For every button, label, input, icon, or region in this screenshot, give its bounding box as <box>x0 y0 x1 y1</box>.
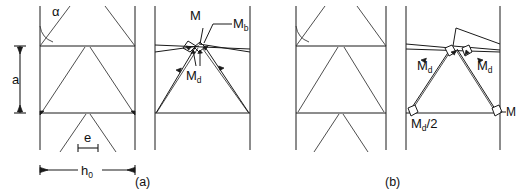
panel-b-geometry <box>296 6 386 152</box>
strut-upper-right-b <box>357 6 386 46</box>
label-dimension-a: a <box>12 72 20 87</box>
label-moment-Mb: Mb <box>233 16 249 33</box>
label-moment-Md-half-b: Md/2 <box>411 116 437 133</box>
diagonal-right-b <box>344 47 384 112</box>
diagonal-left-a <box>42 47 85 112</box>
member-left-heavy-b2 <box>409 48 451 112</box>
diagonal-right-b2 <box>456 50 496 113</box>
strut-lower-right-b <box>343 114 368 152</box>
label-dimension-e: e <box>84 130 91 145</box>
alpha-arc-a <box>40 26 53 42</box>
label-moment-Md-left-b: Md <box>417 58 433 75</box>
arrowhead-right-member-a2 <box>219 66 224 70</box>
strut-upper-left-b <box>296 6 325 46</box>
strut-lower-left-b <box>314 114 339 152</box>
dim-a-arrow-up <box>17 47 22 54</box>
vector-M-shaft-a2 <box>200 28 203 44</box>
tie-apex-left-b2 <box>406 44 451 48</box>
caption-b: (b) <box>385 175 400 189</box>
member-right-heavy-a2 <box>205 47 249 113</box>
diagonal-right-a <box>90 47 133 112</box>
top-chord-a2 <box>155 45 250 49</box>
tie-apex-right-b2 <box>456 28 500 44</box>
strut-upper-right-a <box>105 6 135 46</box>
vector-Md-right-head-a2 <box>198 50 203 53</box>
strut-lower-left-a <box>60 114 86 152</box>
label-moment-M-a: M <box>190 8 201 23</box>
strut-lower-right-a <box>90 114 116 152</box>
dim-h0-arrow-right <box>127 167 135 172</box>
vector-terminal-left-b2 <box>408 105 418 116</box>
diagonal-right-a2 <box>203 49 248 112</box>
label-moment-Md-a: Md <box>186 68 202 85</box>
panel-a-geometry <box>14 6 135 178</box>
label-moment-M-right-b: M <box>506 105 516 119</box>
figure-canvas: α a e h0 M Mb Md Md Md Md/2 M (a) (b) <box>0 0 527 196</box>
leader-Mb-a2 <box>204 24 232 43</box>
alpha-arc-b <box>296 26 309 42</box>
caption-a: (a) <box>135 175 150 189</box>
dim-a-arrow-down <box>17 105 22 112</box>
dim-h0-arrow-left <box>40 167 48 172</box>
diagonal-left-b <box>298 47 338 112</box>
label-alpha: α <box>52 4 60 19</box>
figure-container: α a e h0 M Mb Md Md Md Md/2 M (a) (b) <box>0 0 527 196</box>
vector-apex-spike-b2 <box>453 28 456 46</box>
tie-apex-right2-b2 <box>453 46 500 50</box>
label-moment-Md-right-b: Md <box>477 58 493 75</box>
